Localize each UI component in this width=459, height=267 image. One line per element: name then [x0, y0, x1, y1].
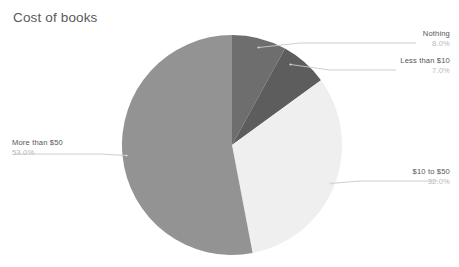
slice-label-less-than-10: Less than $10 7.0% — [400, 57, 450, 76]
slice-label-nothing-value: 8.0% — [423, 40, 450, 49]
leader-dot-10-to-50 — [329, 182, 331, 184]
leader-dot-less-than-10 — [289, 63, 291, 65]
leader-line-nothing — [259, 43, 417, 48]
leader-dot-nothing — [257, 46, 259, 48]
slice-label-more-than-50-name: More than $50 — [12, 139, 63, 148]
slice-label-10-to-50: $10 to $50 32.0% — [413, 168, 450, 187]
slice-label-nothing: Nothing 8.0% — [423, 30, 450, 49]
pie-chart: Cost of books Nothing 8.0% Less than $10… — [0, 0, 459, 267]
slice-label-10-to-50-name: $10 to $50 — [413, 168, 450, 177]
leader-dot-more-than-50 — [125, 154, 127, 156]
slice-label-less-than-10-value: 7.0% — [400, 67, 450, 76]
slice-label-nothing-name: Nothing — [423, 30, 450, 39]
slice-label-less-than-10-name: Less than $10 — [400, 57, 450, 66]
slice-label-10-to-50-value: 32.0% — [413, 178, 450, 187]
slice-label-more-than-50: More than $50 53.0% — [12, 139, 63, 158]
pie-graphic — [0, 0, 459, 267]
slice-label-more-than-50-value: 53.0% — [12, 149, 63, 158]
